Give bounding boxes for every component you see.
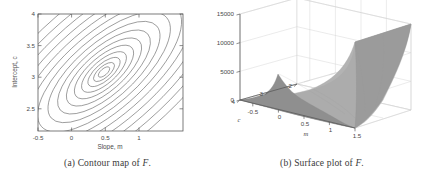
surface-ztick-label-2: 10000	[217, 39, 235, 46]
surface-ztick-label-3: 15000	[217, 10, 235, 17]
contour-ytick-label-3: 4	[32, 10, 36, 17]
surface-plot-svg: 0 5000 10000 15000 F 4 3 2 c	[215, 0, 429, 150]
caption-a-period: .	[148, 158, 151, 168]
caption-a-prefix: (a)	[64, 158, 75, 168]
contour-ytick-label-0: 2.5	[26, 105, 35, 112]
caption-surface-plot: (b) Surface plot of F.	[215, 158, 429, 168]
surface-mtick-label-4: 1.5	[353, 132, 362, 139]
surface-mtick-label-0: -0.5	[247, 108, 258, 115]
caption-b-text: Surface plot of	[294, 158, 353, 168]
contour-ytick-label-1: 3	[32, 73, 36, 80]
surface-z-ticks	[237, 14, 241, 101]
surface-ztick-label-1: 5000	[220, 68, 234, 75]
caption-b-prefix: (b)	[280, 158, 292, 168]
contour-plot-area	[38, 14, 183, 131]
surface-mtick-label-1: 0	[278, 113, 282, 120]
contour-xtick-label-0: -0.5	[33, 134, 44, 141]
contour-y-axis-title: Intercept, c	[11, 55, 19, 87]
contour-xtick-label-1: 0	[70, 134, 74, 141]
surface-ctick-label-4: 4	[232, 98, 236, 105]
panel-surface-plot: 0 5000 10000 15000 F 4 3 2 c	[215, 0, 429, 186]
panel-contour-map: -0.5 0 0.5 1 2.5 3 3.5 4 Slope, m Interc…	[0, 0, 215, 186]
surface-mtick-label-3: 1	[329, 126, 333, 133]
contour-ytick-label-2: 3.5	[26, 42, 35, 49]
surface-m-axis-title: m	[304, 130, 309, 137]
figure-container: -0.5 0 0.5 1 2.5 3 3.5 4 Slope, m Interc…	[0, 0, 429, 186]
surface-mtick-label-2: 0.5	[301, 120, 310, 127]
caption-a-text: Contour map of	[78, 158, 140, 168]
surface-c-axis-title: c	[238, 116, 241, 123]
caption-b-period: .	[361, 158, 364, 168]
contour-x-axis-title: Slope, m	[97, 143, 122, 150]
surface-ctick-label-3: 3	[260, 90, 264, 97]
surface-ctick-label-2: 2	[289, 82, 293, 89]
contour-xtick-label-3: 1	[137, 134, 141, 141]
caption-contour-map: (a) Contour map of F.	[0, 158, 215, 168]
contour-xtick-label-2: 0.5	[101, 134, 110, 141]
contour-plot-svg: -0.5 0 0.5 1 2.5 3 3.5 4 Slope, m Interc…	[0, 0, 215, 150]
